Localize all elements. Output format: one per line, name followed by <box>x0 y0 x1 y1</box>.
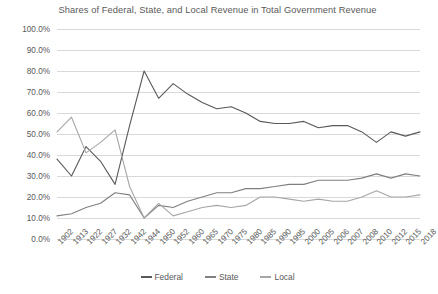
legend-label: Local <box>274 272 294 282</box>
legend-item-federal[interactable]: Federal <box>141 272 183 282</box>
chart-title: Shares of Federal, State, and Local Reve… <box>0 5 435 15</box>
y-axis-tick-label: 50.0% <box>27 130 50 139</box>
chart-legend: FederalStateLocal <box>0 272 435 282</box>
y-axis-tick-label: 100.0% <box>22 25 50 34</box>
y-axis-tick-label: 30.0% <box>27 172 50 181</box>
x-axis-tick-label: 2018 <box>419 227 438 246</box>
legend-swatch-icon <box>141 276 152 278</box>
y-axis-tick-label: 70.0% <box>27 88 50 97</box>
y-axis-tick-label: 80.0% <box>27 67 50 76</box>
legend-swatch-icon <box>260 276 271 278</box>
plot-area <box>57 29 420 239</box>
legend-swatch-icon <box>205 276 216 278</box>
series-line-federal <box>57 71 420 184</box>
legend-label: State <box>219 272 239 282</box>
legend-item-state[interactable]: State <box>205 272 239 282</box>
y-axis-tick-label: 20.0% <box>27 193 50 202</box>
y-axis-tick-label: 0.0% <box>31 235 50 244</box>
series-lines <box>57 29 420 239</box>
y-axis-tick-label: 60.0% <box>27 109 50 118</box>
series-line-local <box>57 117 420 218</box>
legend-label: Federal <box>155 272 183 282</box>
y-axis: 100.0%90.0%80.0%70.0%60.0%50.0%40.0%30.0… <box>0 29 54 239</box>
legend-item-local[interactable]: Local <box>260 272 294 282</box>
y-axis-tick-label: 90.0% <box>27 46 50 55</box>
y-axis-tick-label: 10.0% <box>27 214 50 223</box>
y-axis-tick-label: 40.0% <box>27 151 50 160</box>
